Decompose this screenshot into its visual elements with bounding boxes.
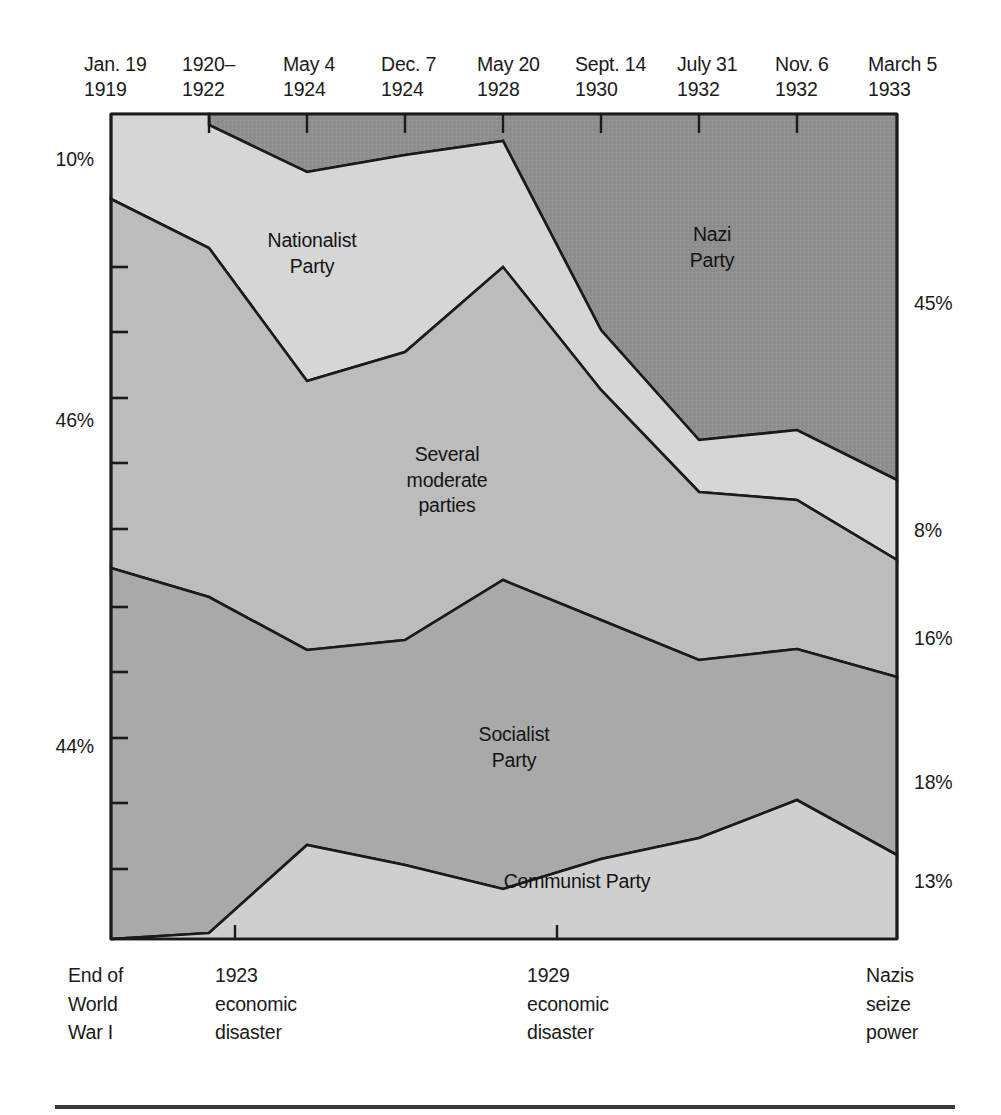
annotation-1929-economic-disaster: 1929 economic disaster	[527, 961, 609, 1047]
y-axis-label-right-16pct: 16%	[914, 627, 952, 649]
annotation-line2: seize	[866, 990, 918, 1019]
y-axis-label-right-18pct: 18%	[914, 771, 952, 793]
y-axis-label-left-46pct: 46%	[2, 409, 94, 431]
x-tick-label-1: 1920– 1922	[182, 52, 235, 102]
x-tick-line2: 1928	[477, 77, 540, 102]
x-tick-line2: 1924	[381, 77, 436, 102]
x-tick-line1: Dec. 7	[381, 53, 436, 75]
x-tick-line1: May 20	[477, 53, 540, 75]
y-axis-label-left-10pct: 10%	[2, 148, 94, 170]
x-tick-label-7: Nov. 6 1932	[775, 52, 829, 102]
x-tick-line2: 1932	[677, 77, 737, 102]
annotation-line2: economic	[215, 990, 297, 1019]
election-share-area-chart: Jan. 19 1919 1920– 1922 May 4 1924 Dec. …	[0, 0, 1001, 1115]
x-tick-line1: Jan. 19	[84, 53, 147, 75]
x-tick-label-0: Jan. 19 1919	[84, 52, 147, 102]
annotation-end-of-world-war-i: End of World War I	[68, 961, 123, 1047]
annotation-line3: disaster	[215, 1018, 297, 1047]
annotation-line1: End of	[68, 961, 123, 990]
x-tick-line2: 1933	[868, 77, 937, 102]
x-tick-line1: Nov. 6	[775, 53, 829, 75]
annotation-line1: 1929	[527, 961, 609, 990]
x-tick-line1: Sept. 14	[575, 53, 646, 75]
x-tick-line2: 1932	[775, 77, 829, 102]
annotation-line2: economic	[527, 990, 609, 1019]
chart-plot-area	[0, 0, 1001, 1115]
annotation-1923-economic-disaster: 1923 economic disaster	[215, 961, 297, 1047]
x-tick-line2: 1919	[84, 77, 147, 102]
x-tick-line2: 1924	[283, 77, 335, 102]
annotation-line3: disaster	[527, 1018, 609, 1047]
x-tick-line1: July 31	[677, 53, 737, 75]
annotation-line3: power	[866, 1018, 918, 1047]
y-axis-label-right-45pct: 45%	[914, 292, 952, 314]
x-tick-label-5: Sept. 14 1930	[575, 52, 646, 102]
annotation-line2: World	[68, 990, 123, 1019]
y-axis-label-right-8pct: 8%	[914, 519, 942, 541]
x-tick-label-8: March 5 1933	[868, 52, 937, 102]
annotation-nazis-seize-power: Nazis seize power	[866, 961, 918, 1047]
annotation-line3: War I	[68, 1018, 123, 1047]
x-tick-line1: May 4	[283, 53, 335, 75]
x-tick-line1: March 5	[868, 53, 937, 75]
x-tick-line2: 1930	[575, 77, 646, 102]
y-axis-label-left-44pct: 44%	[2, 735, 94, 757]
y-axis-label-right-13pct: 13%	[914, 870, 952, 892]
annotation-line1: Nazis	[866, 961, 918, 990]
x-tick-line1: 1920–	[182, 53, 235, 75]
x-tick-label-4: May 20 1928	[477, 52, 540, 102]
annotation-line1: 1923	[215, 961, 297, 990]
x-tick-label-3: Dec. 7 1924	[381, 52, 436, 102]
x-tick-label-2: May 4 1924	[283, 52, 335, 102]
bottom-divider-rule	[55, 1105, 955, 1109]
x-tick-label-6: July 31 1932	[677, 52, 737, 102]
x-tick-line2: 1922	[182, 77, 235, 102]
